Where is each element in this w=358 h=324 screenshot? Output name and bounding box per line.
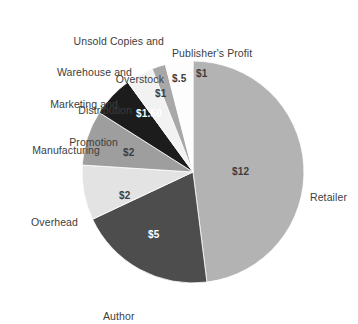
slice-value-overhead: $2 [119,190,145,203]
slice-value-retailer: $12 [232,166,272,179]
category-label-overhead-line1: Overhead [6,216,78,229]
slice-value-manufacturing: $2 [123,147,149,160]
category-label-publishers-profit-line1: Publisher's Profit [172,47,282,60]
category-label-retailer-line1: Retailer [310,191,358,204]
category-label-manufacturing: Manufacturing [4,119,100,182]
slice-value-author: $5 [148,229,178,242]
category-label-author: Author [103,285,173,324]
category-label-overhead: Overhead [6,191,78,254]
category-label-manufacturing-line1: Manufacturing [4,144,100,157]
category-label-retailer: Retailer [310,166,358,229]
category-label-author-line1: Author [103,310,173,323]
category-label-publishers-profit: Publisher's Profit [172,22,282,85]
category-label-marketing-line1: Marketing and [14,98,118,111]
